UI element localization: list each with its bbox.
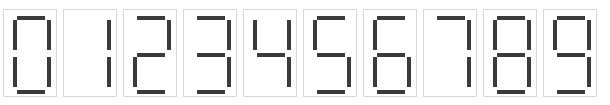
- segment-b-icon: [527, 20, 531, 50]
- segment-a-icon: [197, 16, 225, 20]
- segment-f-icon: [373, 20, 377, 50]
- digit-cell-0: [3, 9, 57, 97]
- segment-a-icon: [437, 16, 465, 20]
- segment-a-icon: [137, 16, 165, 20]
- segment-d-icon: [557, 90, 585, 94]
- segment-d-icon: [317, 90, 345, 94]
- segment-c-icon: [107, 57, 111, 87]
- segment-g-icon: [497, 53, 525, 57]
- segment-e-icon: [373, 57, 377, 87]
- segment-g-icon: [557, 53, 585, 57]
- segment-g-icon: [377, 53, 405, 57]
- digit-cell-3: [183, 9, 237, 97]
- segment-d-icon: [497, 90, 525, 94]
- segment-f-icon: [313, 20, 317, 50]
- segment-d-icon: [17, 90, 45, 94]
- segment-b-icon: [587, 20, 591, 50]
- digit-cell-2: [123, 9, 177, 97]
- segment-b-icon: [47, 20, 51, 50]
- segment-c-icon: [287, 57, 291, 87]
- segment-a-icon: [497, 16, 525, 20]
- segment-e-icon: [133, 57, 137, 87]
- segment-f-icon: [13, 20, 17, 50]
- seven-segment-digit-strip: [0, 0, 610, 105]
- segment-c-icon: [347, 57, 351, 87]
- digit-cell-7: [423, 9, 477, 97]
- segment-c-icon: [587, 57, 591, 87]
- segment-e-icon: [13, 57, 17, 87]
- segment-b-icon: [167, 20, 171, 50]
- digit-cell-1: [63, 9, 117, 97]
- segment-f-icon: [253, 20, 257, 50]
- segment-c-icon: [227, 57, 231, 87]
- segment-d-icon: [137, 90, 165, 94]
- segment-d-icon: [197, 90, 225, 94]
- segment-g-icon: [257, 53, 285, 57]
- segment-c-icon: [527, 57, 531, 87]
- segment-g-icon: [197, 53, 225, 57]
- segment-a-icon: [17, 16, 45, 20]
- segment-g-icon: [317, 53, 345, 57]
- segment-f-icon: [553, 20, 557, 50]
- segment-e-icon: [493, 57, 497, 87]
- digit-cell-8: [483, 9, 537, 97]
- segment-f-icon: [493, 20, 497, 50]
- digit-cell-6: [363, 9, 417, 97]
- segment-b-icon: [107, 20, 111, 50]
- segment-c-icon: [47, 57, 51, 87]
- segment-g-icon: [137, 53, 165, 57]
- segment-c-icon: [467, 57, 471, 87]
- digit-cell-4: [243, 9, 297, 97]
- segment-b-icon: [467, 20, 471, 50]
- segment-c-icon: [407, 57, 411, 87]
- segment-a-icon: [317, 16, 345, 20]
- segment-d-icon: [377, 90, 405, 94]
- digit-cell-5: [303, 9, 357, 97]
- segment-b-icon: [287, 20, 291, 50]
- segment-b-icon: [227, 20, 231, 50]
- segment-a-icon: [377, 16, 405, 20]
- digit-cell-9: [543, 9, 597, 97]
- segment-a-icon: [557, 16, 585, 20]
